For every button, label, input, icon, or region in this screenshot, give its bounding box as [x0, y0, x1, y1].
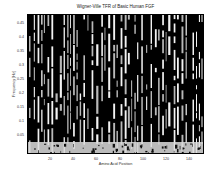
- y-tick: 0.3: [8, 63, 24, 67]
- y-tick: 0.4: [8, 35, 24, 39]
- y-tick: 0.25: [8, 77, 24, 81]
- chart-title: Wigner-Ville TFR of Basic Human FGF: [27, 4, 204, 9]
- x-tick: 40: [66, 157, 80, 161]
- x-axis-label: Amino Acid Position: [27, 162, 204, 166]
- x-tick: 20: [43, 157, 57, 161]
- x-tick: 120: [159, 157, 173, 161]
- y-tick: 0.45: [8, 21, 24, 25]
- x-tick: 140: [182, 157, 196, 161]
- y-tick: 0.15: [8, 105, 24, 109]
- x-tick: 80: [113, 157, 127, 161]
- y-tick: 0.2: [8, 91, 24, 95]
- y-tick: 0.35: [8, 49, 24, 53]
- heatmap-stripes: [28, 15, 204, 154]
- x-tick: 100: [136, 157, 150, 161]
- x-tick: 60: [89, 157, 103, 161]
- y-tick: 0.1: [8, 119, 24, 123]
- y-tick: 0.05: [8, 133, 24, 137]
- tfr-heatmap: [27, 14, 204, 154]
- y-axis-label: Frequency [Hz]: [12, 64, 16, 104]
